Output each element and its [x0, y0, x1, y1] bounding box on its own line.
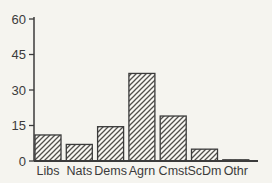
x-category-label: Agrn [129, 164, 155, 178]
x-category-label: Nats [66, 164, 92, 178]
y-tick-label: 30 [12, 83, 26, 98]
bar-nats [66, 144, 92, 161]
y-tick-label: 0 [19, 154, 26, 169]
bar-dems [98, 127, 124, 161]
bar-chart: 015304560LibsNatsDemsAgrnCmstScDmOthr [0, 0, 272, 183]
x-category-label: Libs [37, 164, 60, 178]
bar-agrn [129, 73, 155, 161]
y-tick-label: 45 [12, 47, 26, 62]
bar-libs [35, 135, 61, 161]
x-category-label: Othr [224, 164, 248, 178]
y-tick-label: 60 [12, 12, 26, 27]
x-category-label: Dems [94, 164, 127, 178]
x-category-label: ScDm [187, 164, 221, 178]
bar-cmst [160, 116, 186, 161]
bar-scdm [192, 149, 218, 161]
y-tick-label: 15 [12, 118, 26, 133]
x-category-label: Cmst [159, 164, 189, 178]
bar-chart-figure: 015304560LibsNatsDemsAgrnCmstScDmOthr [0, 0, 272, 183]
